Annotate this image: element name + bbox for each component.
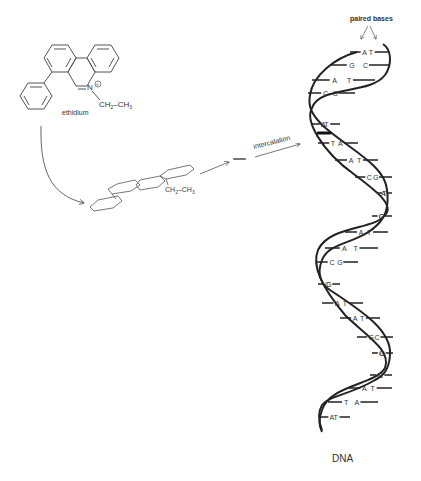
- base-right: T: [324, 121, 329, 128]
- base-right: G: [326, 281, 331, 288]
- base-right: T: [343, 300, 348, 307]
- nitrogen-atom: N: [87, 83, 93, 92]
- n-ethyl-bond: [92, 91, 100, 100]
- base-left: A: [362, 385, 367, 392]
- side-ring-4: [160, 165, 194, 179]
- base-left: A: [353, 315, 358, 322]
- dna-label: DNA: [332, 453, 353, 464]
- diagram-canvas: N + CH2–CH3 ethidium CH2–CH3 intercalati…: [0, 0, 421, 481]
- base-left: C: [367, 174, 372, 181]
- base-right: T: [334, 414, 339, 421]
- base-left: A: [349, 157, 354, 164]
- base-left: G: [369, 334, 374, 341]
- base-right: G: [333, 90, 338, 97]
- ethidium-label: ethidium: [62, 109, 89, 116]
- base-left: A: [332, 77, 337, 84]
- base-right: C: [380, 350, 385, 357]
- phenyl-double-bonds: [24, 87, 47, 105]
- base-left: A: [342, 245, 347, 252]
- paired-bases-arrow-right: [370, 26, 376, 39]
- ethyl-group-label: CH2–CH3: [99, 100, 132, 110]
- base-right: T: [353, 245, 358, 252]
- intercalation-label: intercalation: [253, 134, 291, 150]
- ring-a-double-bonds: [47, 49, 71, 67]
- base-right: T: [369, 49, 374, 56]
- arrow-to-edge-view: [200, 162, 229, 174]
- base-left: C: [329, 259, 334, 266]
- base-left: A: [335, 300, 340, 307]
- base-right: G: [373, 174, 378, 181]
- phenyl-bond: [44, 72, 52, 83]
- base-right: T: [367, 229, 372, 236]
- ring-c: [68, 58, 95, 86]
- base-right: T: [360, 315, 365, 322]
- charge-sign: +: [96, 81, 99, 87]
- base-right: T: [371, 385, 376, 392]
- side-ethyl-bond: [166, 179, 168, 185]
- base-left: T: [344, 399, 349, 406]
- curved-arrow: [41, 126, 84, 203]
- base-left: T: [331, 140, 336, 147]
- side-ring-3: [136, 176, 165, 190]
- base-right: T: [347, 77, 352, 84]
- base-left: A: [362, 49, 367, 56]
- base-right: A: [381, 190, 386, 197]
- side-ring-2: [108, 180, 140, 194]
- base-right: C: [378, 372, 383, 379]
- base-pair-rungs: ATGCATCGATTAATCGTAGCATATCGCGATATGCGCGCAT…: [308, 49, 393, 421]
- base-left: C: [323, 90, 328, 97]
- base-right: A: [338, 140, 343, 147]
- base-left: G: [349, 62, 354, 69]
- ring-b-double-bonds: [91, 49, 114, 67]
- base-left: A: [359, 229, 364, 236]
- base-right: C: [379, 213, 384, 220]
- base-right: A: [355, 399, 360, 406]
- side-ring-1: [90, 196, 122, 211]
- base-right: C: [374, 334, 379, 341]
- side-ethyl-label: CH2–CH3: [165, 186, 195, 195]
- base-right: T: [357, 157, 362, 164]
- base-right: C: [363, 62, 368, 69]
- paired-bases-label: paired bases: [350, 15, 393, 23]
- base-right: G: [337, 259, 342, 266]
- paired-bases-arrow-left: [361, 26, 368, 39]
